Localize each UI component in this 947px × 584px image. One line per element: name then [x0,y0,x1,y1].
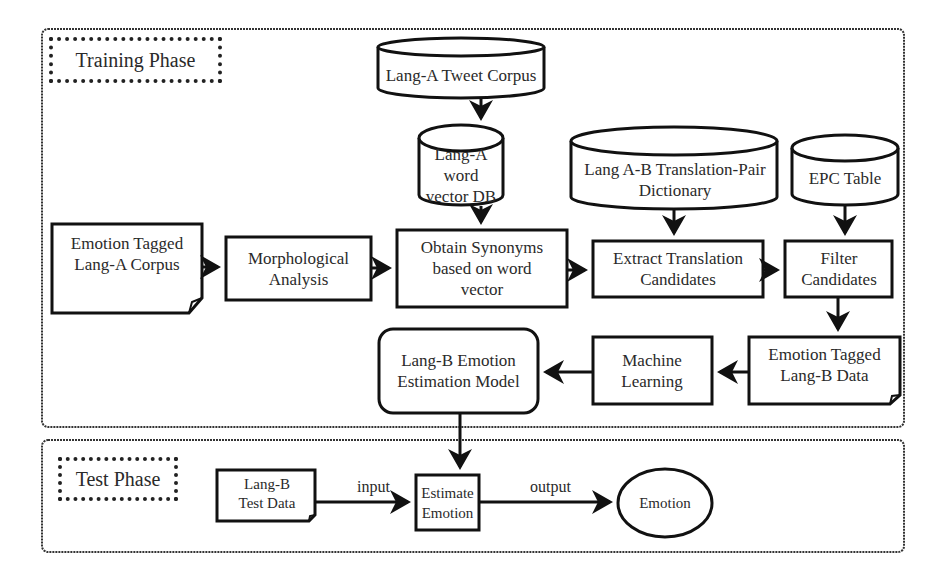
synonyms-label: Obtain Synonyms based on word vector [412,233,552,304]
filter-label: Filter Candidates [798,243,880,295]
ml-label: Machine Learning [612,340,692,401]
tagged-corpus-label: Emotion Tagged Lang-A Corpus [56,228,198,280]
dictionary-label: Lang A-B Translation-Pair Dictionary [575,156,775,204]
tagged-b-label: Emotion Tagged Lang-B Data [752,340,897,390]
epc-table-label: EPC Table [794,162,896,194]
extract-label: Extract Translation Candidates [597,243,759,295]
tweet-corpus-label: Lang-A Tweet Corpus [380,60,542,90]
input-edge-label: input [357,478,390,496]
word-vector-db-label: Lang-A word vector DB [422,152,500,198]
output-edge-label: output [530,478,571,496]
test-phase-label: Test Phase [58,457,178,501]
estimate-label: Estimate Emotion [418,477,477,528]
emotion-label: Emotion [620,490,710,516]
test-data-label: Lang-B Test Data [232,472,302,516]
morph-label: Morphological Analysis [232,240,365,297]
training-phase-label: Training Phase [49,37,222,83]
model-label: Lang-B Emotion Estimation Model [388,332,529,410]
